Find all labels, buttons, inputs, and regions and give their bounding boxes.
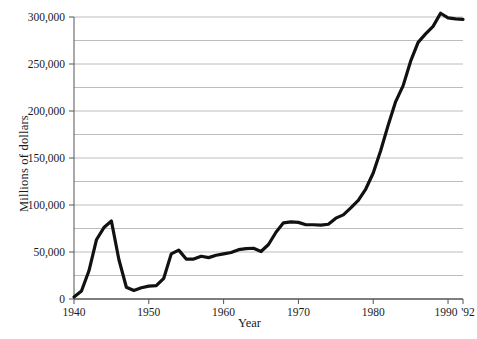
data-series-group (74, 13, 463, 297)
x-tick-label: 1990 (435, 306, 458, 318)
y-tick-label: 150,000 (0, 152, 65, 164)
x-tick-label: 1940 (63, 306, 86, 318)
x-axis-title: Year (0, 316, 477, 331)
y-tick-label: 300,000 (0, 11, 65, 23)
line-chart-canvas (0, 0, 477, 339)
x-tick-label: 1980 (362, 306, 385, 318)
y-tick-label: 0 (0, 293, 65, 305)
x-axis-ticks-group (74, 299, 463, 304)
x-tick-label: '92 (461, 306, 475, 318)
chart-container: Millions of dollars Year 050,000100,0001… (0, 0, 477, 339)
x-tick-label: 1960 (212, 306, 235, 318)
y-tick-label: 200,000 (0, 105, 65, 117)
y-axis-ticks-group (69, 17, 74, 299)
y-tick-label: 100,000 (0, 199, 65, 211)
y-tick-label: 50,000 (0, 246, 65, 258)
x-tick-label: 1970 (287, 306, 310, 318)
x-tick-label: 1950 (137, 306, 160, 318)
gridlines-group (74, 17, 463, 299)
y-tick-label: 250,000 (0, 58, 65, 70)
data-line-1 (74, 13, 463, 297)
